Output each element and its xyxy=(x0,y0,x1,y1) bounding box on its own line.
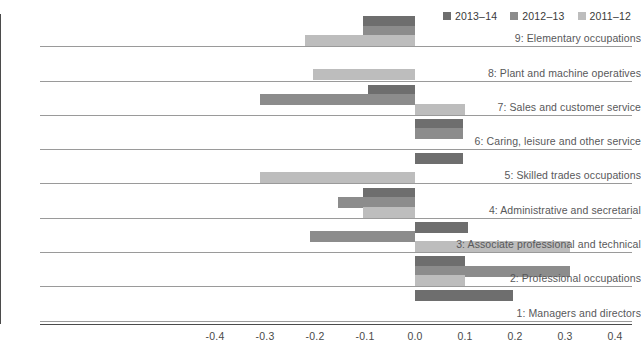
chart-bar xyxy=(310,231,415,242)
chart-group: 1: Managers and directors xyxy=(0,290,641,324)
x-tick-label: 0.4 xyxy=(595,330,635,342)
x-tick-label: 0.2 xyxy=(495,330,535,342)
x-tick-label: -0.3 xyxy=(245,330,285,342)
plot-area: -0.4-0.3-0.2-0.10.00.10.20.30.49: Elemen… xyxy=(0,0,641,354)
category-label: 3: Associate professional and technical xyxy=(435,238,641,250)
group-separator xyxy=(40,183,632,184)
chart-bar xyxy=(305,35,415,46)
bar-chart: 2013–142012–132011–12 -0.4-0.3-0.2-0.10.… xyxy=(0,0,641,354)
x-tick-label: 0.0 xyxy=(395,330,435,342)
group-separator xyxy=(40,321,632,322)
chart-group: 6: Caring, leisure and other service xyxy=(0,119,641,153)
chart-bar xyxy=(415,290,513,301)
category-label: 6: Caring, leisure and other service xyxy=(435,135,641,147)
category-label: 1: Managers and directors xyxy=(435,307,641,319)
chart-bar xyxy=(363,207,416,218)
chart-bar xyxy=(260,94,415,105)
chart-group: 3: Associate professional and technical xyxy=(0,222,641,256)
category-label: 4: Administrative and secretarial xyxy=(435,204,641,216)
chart-group: 8: Plant and machine operatives xyxy=(0,50,641,84)
group-separator xyxy=(40,115,632,116)
group-separator xyxy=(40,218,632,219)
group-separator xyxy=(40,46,632,47)
group-separator xyxy=(40,81,632,82)
x-tick-label: -0.2 xyxy=(295,330,335,342)
group-separator xyxy=(40,252,632,253)
category-label: 5: Skilled trades occupations xyxy=(435,169,641,181)
chart-group: 5: Skilled trades occupations xyxy=(0,153,641,187)
group-separator xyxy=(40,286,632,287)
chart-group: 4: Administrative and secretarial xyxy=(0,188,641,222)
chart-group: 2: Professional occupations xyxy=(0,256,641,290)
group-separator xyxy=(40,149,632,150)
x-tick-label: -0.4 xyxy=(195,330,235,342)
category-label: 8: Plant and machine operatives xyxy=(435,67,641,79)
x-tick-label: 0.3 xyxy=(545,330,585,342)
category-label: 7: Sales and customer service xyxy=(435,101,641,113)
category-label: 9: Elementary occupations xyxy=(435,32,641,44)
chart-bar xyxy=(415,222,468,233)
chart-bar xyxy=(313,69,416,80)
chart-bar xyxy=(260,172,415,183)
chart-group: 7: Sales and customer service xyxy=(0,85,641,119)
x-tick-label: -0.1 xyxy=(345,330,385,342)
x-tick-label: 0.1 xyxy=(445,330,485,342)
chart-group: 9: Elementary occupations xyxy=(0,16,641,50)
chart-bar xyxy=(415,153,463,164)
category-label: 2: Professional occupations xyxy=(435,272,641,284)
